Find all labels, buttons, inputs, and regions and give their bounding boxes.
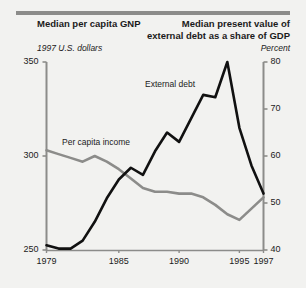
y-axis-right-tick-label: 80 [271, 56, 295, 66]
series-line-per-capita-income [47, 150, 264, 220]
series-label-per-capita-income: Per capita income [62, 137, 130, 147]
y-axis-left-tick-label: 250 [15, 244, 39, 254]
x-axis-tick-label: 1985 [99, 256, 139, 266]
series-label-debt-text: External debt [145, 79, 195, 89]
series-label-income-text: Per capita income [62, 137, 130, 147]
y-axis-left-tick-label: 300 [15, 150, 39, 160]
y-axis-right-tick-label: 60 [271, 150, 295, 160]
series-label-external-debt: External debt [145, 79, 195, 89]
y-axis-right-tick-label: 40 [271, 244, 295, 254]
chart-series [47, 62, 264, 249]
y-axis-right-tick-label: 50 [271, 197, 295, 207]
chart-plot-area [0, 0, 306, 288]
series-line-external-debt [47, 62, 264, 249]
x-axis-tick-label: 1997 [244, 256, 284, 266]
chart-axes [47, 62, 264, 251]
x-axis-tick-label: 1990 [159, 256, 199, 266]
y-axis-left-tick-label: 350 [15, 56, 39, 66]
x-axis-tick-label: 1979 [27, 256, 67, 266]
y-axis-right-tick-label: 70 [271, 103, 295, 113]
chart-figure: Median per capita GNP 1997 U.S. dollars … [0, 0, 306, 288]
